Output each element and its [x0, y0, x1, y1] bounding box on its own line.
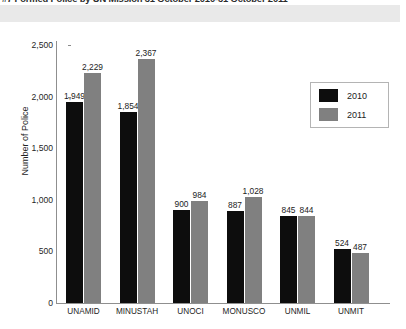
bar-unoci-2011: 984 — [191, 201, 208, 303]
bar-value-unamid-2011: 2,229 — [82, 62, 103, 72]
legend-item-2010: 2010 — [319, 89, 367, 102]
legend-swatch-2011 — [319, 108, 338, 121]
bar-unmit-2011: 487 — [352, 253, 369, 303]
bar-value-unoci-2010: 900 — [175, 199, 189, 209]
bar-value-monusco-2010: 887 — [228, 200, 242, 210]
legend-swatch-2010 — [319, 89, 338, 102]
bar-minustah-2010: 1,854 — [120, 112, 137, 303]
bar-value-unoci-2011: 984 — [193, 190, 207, 200]
chart-plot-area: Number of Police 05001,0001,5002,0002,50… — [0, 24, 406, 329]
bar-value-unamid-2010: 1,949 — [64, 91, 85, 101]
x-axis-label-monusco: MONUSCO — [223, 307, 266, 316]
title-background-band — [0, 5, 400, 22]
x-axis-label-unmit: UNMIT — [338, 307, 364, 316]
bar-series-layer: 1,9492,2291,8542,3679009848871,028845844… — [0, 24, 406, 329]
chart-title-strip: #7 Formed Police by UN Mission 31 Octobe… — [0, 0, 406, 22]
bar-value-monusco-2011: 1,028 — [243, 186, 264, 196]
bar-unamid-2010: 1,949 — [66, 102, 83, 303]
bar-value-unmit-2011: 487 — [353, 242, 367, 252]
legend-item-2011: 2011 — [319, 108, 366, 121]
x-axis-label-unamid: UNAMID — [67, 307, 99, 316]
bar-value-unmit-2010: 524 — [335, 238, 349, 248]
bar-monusco-2010: 887 — [227, 211, 244, 303]
bar-value-unmil-2011: 844 — [300, 205, 314, 215]
x-axis-label-unmil: UNMIL — [285, 307, 310, 316]
chart-title: #7 Formed Police by UN Mission 31 Octobe… — [2, 0, 406, 4]
bar-unmil-2011: 844 — [298, 216, 315, 303]
legend-label-2010: 2010 — [347, 91, 367, 101]
bar-value-minustah-2011: 2,367 — [136, 48, 157, 58]
bar-value-minustah-2010: 1,854 — [118, 101, 139, 111]
bar-minustah-2011: 2,367 — [138, 59, 155, 303]
bar-monusco-2011: 1,028 — [245, 197, 262, 303]
legend-label-2011: 2011 — [347, 110, 366, 120]
x-axis-label-minustah: MINUSTAH — [116, 307, 158, 316]
chart-legend: 2010 2011 — [310, 82, 389, 128]
bar-unmit-2010: 524 — [334, 249, 351, 303]
bar-unmil-2010: 845 — [280, 216, 297, 303]
bar-unoci-2010: 900 — [173, 210, 190, 303]
bar-value-unmil-2010: 845 — [282, 205, 296, 215]
x-axis-label-unoci: UNOCI — [177, 307, 203, 316]
bar-unamid-2011: 2,229 — [84, 73, 101, 303]
